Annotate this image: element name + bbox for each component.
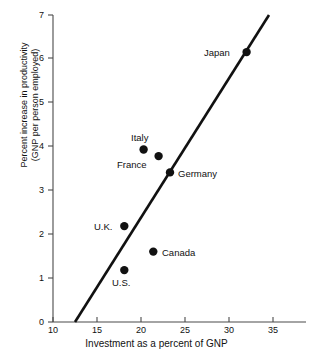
point-label-us: U.S. (112, 278, 130, 288)
data-point-uk (120, 222, 128, 230)
data-point-france (154, 152, 162, 160)
x-axis-ticks (53, 317, 273, 322)
data-point-germany (166, 168, 174, 176)
plot-area (0, 0, 313, 357)
y-axis-title-line2: (GNP per person employed) (30, 15, 41, 195)
point-label-germany: Germany (178, 169, 217, 179)
y-tick-label-0: 0 (30, 318, 44, 327)
x-tick-label-25: 25 (175, 326, 195, 335)
data-point-japan (242, 48, 250, 56)
x-tick-label-30: 30 (219, 326, 239, 335)
x-axis-title: Investment as a percent of GNP (0, 338, 313, 349)
x-tick-label-10: 10 (43, 326, 63, 335)
point-label-canada: Canada (162, 248, 195, 258)
point-label-italy: Italy (131, 133, 148, 143)
data-point-us (120, 266, 128, 274)
y-axis-title: Percent increase in productivity (GNP pe… (19, 15, 41, 195)
y-tick-label-2: 2 (30, 230, 44, 239)
point-label-france: France (117, 160, 147, 170)
trend-line (75, 15, 269, 322)
y-axis-ticks (48, 15, 53, 322)
scatter-chart: 7 6 5 4 3 2 1 0 10 15 20 25 30 35 Percen… (0, 0, 313, 357)
y-tick-label-1: 1 (30, 274, 44, 283)
x-tick-label-20: 20 (131, 326, 151, 335)
data-point-italy (139, 145, 147, 153)
point-label-japan: Japan (204, 48, 230, 58)
y-axis-title-line1: Percent increase in productivity (19, 15, 30, 195)
point-label-uk: U.K. (94, 222, 112, 232)
x-tick-label-15: 15 (87, 326, 107, 335)
data-point-canada (149, 247, 157, 255)
x-tick-label-35: 35 (263, 326, 283, 335)
